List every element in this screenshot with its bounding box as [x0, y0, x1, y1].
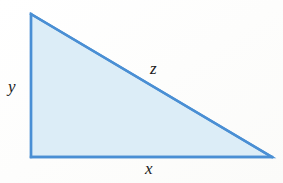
triangle-figure: y z x: [0, 0, 283, 183]
hypotenuse-label: z: [150, 60, 157, 77]
vertical-leg-label: y: [8, 78, 16, 95]
horizontal-leg-label: x: [145, 160, 153, 177]
triangle-svg: [0, 0, 283, 183]
